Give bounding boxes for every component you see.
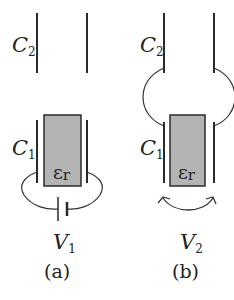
v1-label: V1 xyxy=(53,232,76,253)
c1-label-a: C1 xyxy=(12,138,36,159)
caption-b: (b) xyxy=(172,262,199,281)
epsilon-r-label-b: εr xyxy=(178,163,195,182)
c2-label-a: C2 xyxy=(12,35,36,56)
epsilon-r-label-a: εr xyxy=(53,163,70,182)
v2-label: V2 xyxy=(180,232,203,253)
wire-left-b xyxy=(143,68,164,126)
curved-double-arrow-icon xyxy=(163,198,213,210)
wire-right-b xyxy=(214,68,234,126)
caption-a: (a) xyxy=(44,262,70,281)
c2-label-b: C2 xyxy=(140,35,164,56)
c1-label-b: C1 xyxy=(140,138,164,159)
